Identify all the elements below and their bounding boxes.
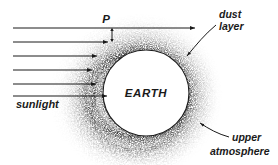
sunlight-label: sunlight bbox=[16, 98, 60, 110]
dust-layer-label-line1: dust bbox=[219, 8, 242, 20]
p-marker-label: P bbox=[102, 13, 110, 25]
diagram-canvas: EARTH sunlight P dust layer upper atmosp… bbox=[0, 0, 278, 165]
dust-layer-label-line2: layer bbox=[219, 20, 244, 32]
earth-label: EARTH bbox=[125, 87, 167, 99]
upper-atmosphere-label-line1: upper bbox=[232, 131, 262, 143]
earth-dust-layer-diagram: EARTH sunlight P dust layer upper atmosp… bbox=[0, 0, 278, 165]
upper-atmosphere-label-line2: atmosphere bbox=[210, 145, 270, 157]
